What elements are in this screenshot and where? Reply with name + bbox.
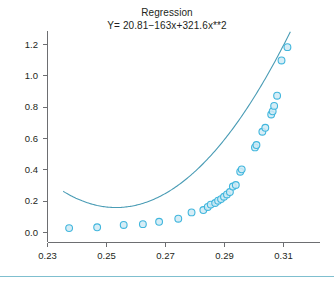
data-point	[120, 222, 127, 229]
data-point	[262, 124, 269, 131]
data-point	[66, 225, 73, 232]
data-point	[274, 92, 281, 99]
y-tick-label: 0.0	[25, 227, 38, 238]
y-tick-label: 0.6	[25, 133, 38, 144]
scatter-points	[66, 44, 291, 232]
x-axis-tick-labels: 0.230.250.270.290.31	[38, 250, 293, 261]
data-point	[271, 102, 278, 109]
data-point	[278, 57, 285, 64]
plot-area: 0.00.20.40.60.81.01.2 0.230.250.270.290.…	[0, 0, 334, 282]
x-tick-label: 0.27	[156, 250, 175, 261]
y-tick-label: 1.2	[25, 39, 38, 50]
x-tick-label: 0.31	[274, 250, 293, 261]
data-point	[232, 182, 239, 189]
data-point	[139, 221, 146, 228]
y-axis-tick-labels: 0.00.20.40.60.81.01.2	[25, 39, 38, 238]
data-point	[253, 142, 260, 149]
data-point	[188, 209, 195, 216]
y-tick-label: 0.4	[25, 164, 38, 175]
x-tick-label: 0.29	[215, 250, 234, 261]
data-point	[238, 166, 245, 173]
y-tick-label: 1.0	[25, 70, 38, 81]
data-point	[175, 215, 182, 222]
y-axis-ticks	[43, 45, 48, 233]
x-tick-label: 0.25	[97, 250, 116, 261]
y-tick-label: 0.8	[25, 101, 38, 112]
x-axis-ticks	[48, 243, 284, 248]
x-tick-label: 0.23	[38, 250, 57, 261]
data-point	[156, 218, 163, 225]
y-tick-label: 0.2	[25, 195, 38, 206]
data-point	[94, 224, 101, 231]
regression-scatter-figure: Regression Y= 20.81−163x+321.6x**2 0.00.…	[0, 0, 334, 282]
data-point	[284, 44, 291, 51]
regression-fit-curve	[63, 32, 290, 208]
